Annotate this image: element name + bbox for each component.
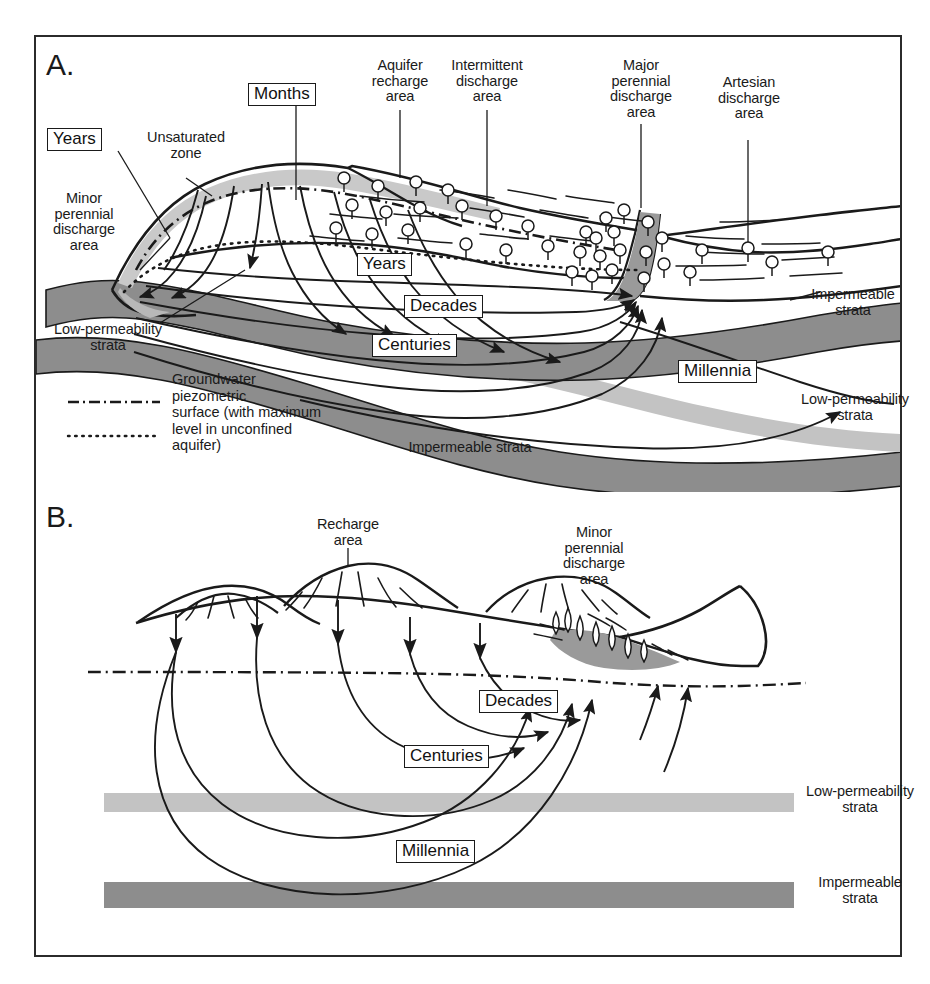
label-artesian-discharge-area: Artesian discharge area — [702, 75, 796, 122]
timebox-millennia-a: Millennia — [678, 360, 757, 383]
label-minor-perennial-discharge-a: Minor perennial discharge area — [38, 191, 130, 253]
label-major-perennial-discharge-area: Major perennial discharge area — [594, 58, 688, 120]
label-recharge-area-b: Recharge area — [300, 517, 396, 548]
timebox-decades-b: Decades — [479, 690, 558, 713]
label-low-permeability-strata-a-right: Low-permeability strata — [796, 392, 914, 423]
label-low-permeability-strata-b: Low-permeability strata — [800, 784, 920, 815]
timebox-years-top: Years — [47, 128, 102, 151]
timebox-years-mid: Years — [357, 253, 412, 276]
timebox-centuries-b: Centuries — [404, 745, 489, 768]
label-unsaturated-zone: Unsaturated zone — [138, 130, 234, 161]
label-low-permeability-strata-a-left: Low-permeability strata — [44, 322, 172, 353]
label-minor-perennial-discharge-b: Minor perennial discharge area — [548, 525, 640, 587]
label-intermittent-discharge-area: Intermittent discharge area — [439, 58, 535, 105]
timebox-decades-a: Decades — [404, 295, 483, 318]
timebox-millennia-b: Millennia — [396, 840, 475, 863]
label-impermeable-strata-a-right: Impermeable strata — [800, 287, 906, 318]
panel-letter-a: A. — [46, 48, 74, 82]
label-impermeable-strata-a-mid: Impermeable strata — [380, 440, 560, 456]
figure-canvas: A. Unsaturated zone Minor perennial disc… — [0, 0, 930, 984]
timebox-months: Months — [248, 83, 316, 106]
label-aquifer-recharge-area: Aquifer recharge area — [352, 58, 448, 105]
timebox-centuries-a: Centuries — [372, 334, 457, 357]
legend-piezometric-text: Groundwater piezometric surface (with ma… — [172, 371, 350, 454]
figure-frame — [34, 35, 902, 957]
panel-letter-b: B. — [46, 500, 74, 534]
label-impermeable-strata-b: Impermeable strata — [806, 875, 914, 906]
